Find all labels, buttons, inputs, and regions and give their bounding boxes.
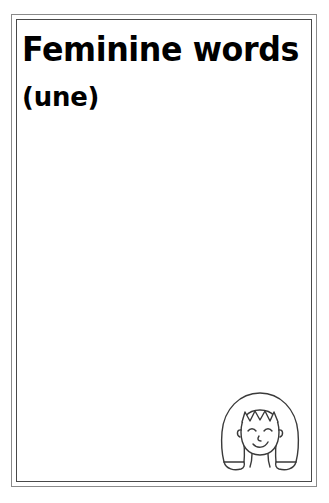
worksheet-page: Feminine words (une) (0, 0, 329, 503)
page-title: Feminine words (22, 33, 281, 68)
page-subtitle: (une) (22, 82, 281, 112)
girl-face-icon (214, 390, 306, 476)
neck (250, 454, 270, 467)
answer-writing-area[interactable] (22, 140, 306, 385)
heading-block: Feminine words (une) (22, 33, 292, 112)
right-hair-lobe (276, 462, 296, 470)
left-hair-lobe (224, 462, 244, 470)
